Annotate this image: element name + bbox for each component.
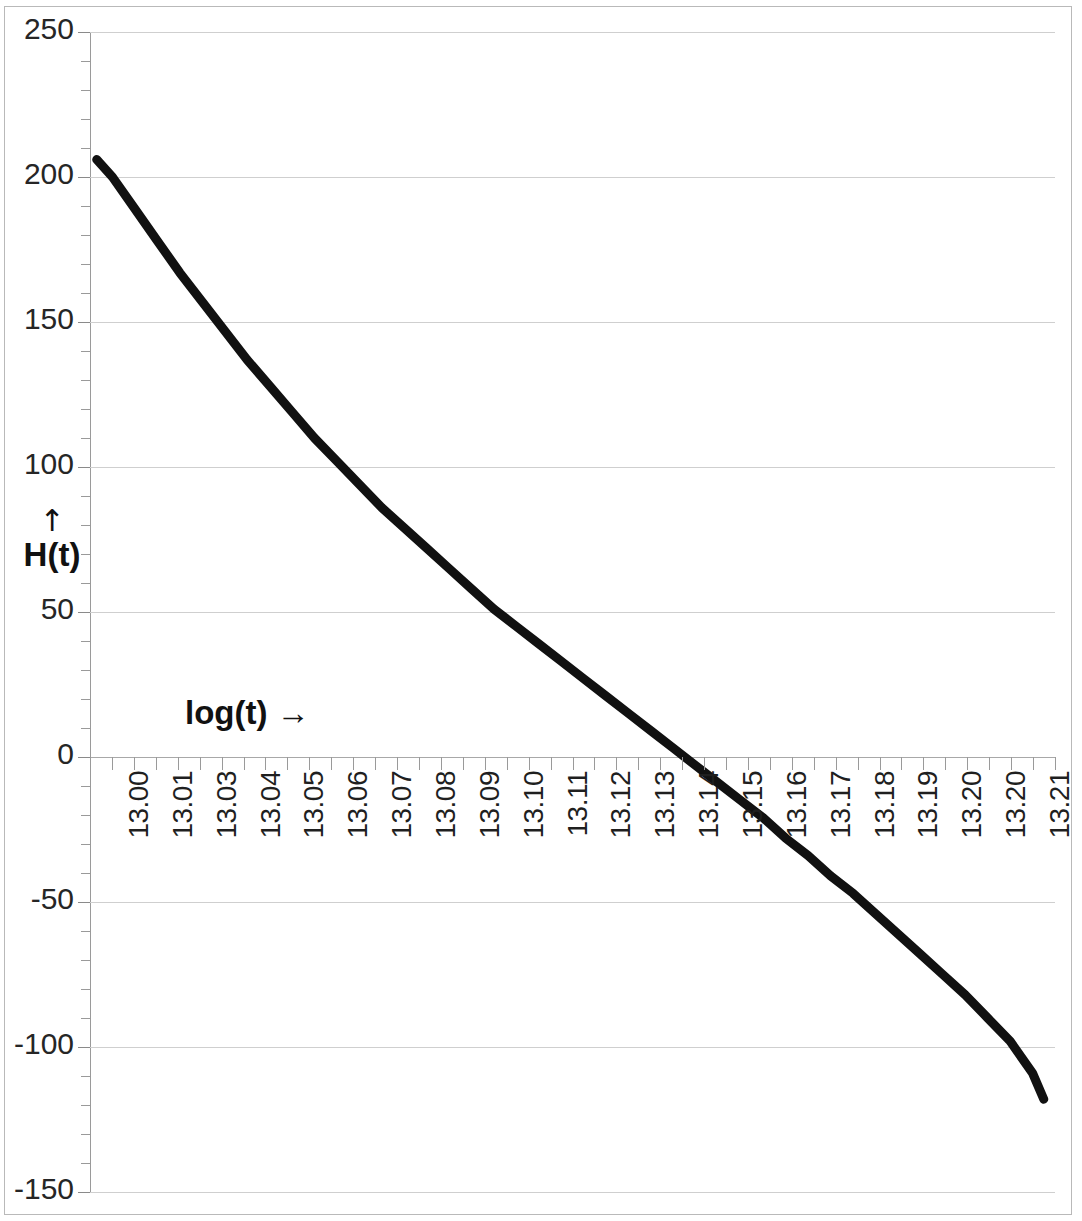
x-tick-label-3: 13.04 [255, 771, 287, 891]
x-tick-label-6: 13.07 [386, 771, 418, 891]
y-tick-mark-220 [81, 119, 90, 120]
x-tick-mark-10 [309, 757, 310, 770]
x-tick-mark-13 [375, 757, 376, 770]
x-axis-ticks [90, 757, 1055, 771]
y-tick-mark--20 [81, 815, 90, 816]
x-tick-label-4: 13.05 [298, 771, 330, 891]
y-axis-title-text: H(t) [14, 536, 90, 574]
x-tick-label-10: 13.11 [562, 771, 594, 891]
x-tick-mark-39 [945, 757, 946, 770]
x-tick-mark-8 [265, 757, 266, 770]
x-tick-label-9: 13.10 [518, 771, 550, 891]
x-tick-label-7: 13.08 [430, 771, 462, 891]
series-polyline-ht [97, 160, 1044, 1100]
x-tick-label-12: 13.13 [649, 771, 681, 891]
x-tick-mark-21 [551, 757, 552, 770]
y-axis-title: ↑ H(t) [14, 506, 90, 574]
x-tick-mark-27 [682, 757, 683, 770]
x-tick-mark-6 [222, 757, 223, 770]
x-tick-mark-35 [858, 757, 859, 770]
x-tick-mark-30 [748, 757, 749, 770]
y-tick-mark-130 [81, 380, 90, 381]
x-tick-mark-34 [836, 757, 837, 770]
y-tick-mark-20 [81, 699, 90, 700]
x-axis-title: log(t) → [185, 694, 310, 732]
y-tick-mark--60 [81, 931, 90, 932]
x-tick-mark-22 [573, 757, 574, 770]
x-tick-mark-23 [594, 757, 595, 770]
x-tick-mark-41 [989, 757, 990, 770]
x-tick-label-16: 13.17 [825, 771, 857, 891]
y-tick-mark--120 [81, 1105, 90, 1106]
x-tick-mark-32 [792, 757, 793, 770]
x-tick-mark-2 [134, 757, 135, 770]
y-tick-mark--90 [81, 1018, 90, 1019]
x-tick-label-2: 13.03 [211, 771, 243, 891]
y-tick-mark--140 [81, 1163, 90, 1164]
x-tick-mark-5 [200, 757, 201, 770]
x-tick-mark-3 [156, 757, 157, 770]
y-tick-mark-0 [78, 757, 90, 758]
y-tick-mark-50 [78, 612, 90, 613]
y-tick-mark-190 [81, 206, 90, 207]
y-tick-mark-250 [78, 32, 90, 33]
y-tick-mark-90 [81, 496, 90, 497]
x-tick-label-14: 13.15 [737, 771, 769, 891]
x-tick-mark-4 [178, 757, 179, 770]
y-tick-mark-230 [81, 90, 90, 91]
x-tick-mark-16 [441, 757, 442, 770]
plot-area [90, 32, 1055, 1192]
x-tick-mark-40 [967, 757, 968, 770]
x-tick-mark-15 [419, 757, 420, 770]
y-tick-mark-170 [81, 264, 90, 265]
y-tick-label-150: 150 [2, 302, 74, 336]
chart-figure: 250200150100500-50-100-150 13.0013.0113.… [0, 0, 1082, 1221]
y-tick-mark-60 [81, 583, 90, 584]
y-tick-label--50: -50 [2, 882, 74, 916]
x-tick-label-1: 13.01 [167, 771, 199, 891]
x-tick-mark-43 [1033, 757, 1034, 770]
x-axis-title-text: log(t) → [185, 694, 310, 731]
y-tick-mark--70 [81, 960, 90, 961]
x-tick-label-21: 13.21 [1044, 771, 1076, 891]
x-tick-label-18: 13.19 [912, 771, 944, 891]
x-tick-mark-24 [616, 757, 617, 770]
y-tick-mark--40 [81, 873, 90, 874]
y-tick-mark-30 [81, 670, 90, 671]
x-tick-label-17: 13.18 [869, 771, 901, 891]
x-tick-mark-36 [880, 757, 881, 770]
y-tick-mark--80 [81, 989, 90, 990]
y-tick-mark-10 [81, 728, 90, 729]
y-axis-tick-labels: 250200150100500-50-100-150 [0, 0, 74, 1221]
x-tick-mark-7 [244, 757, 245, 770]
series-line-chart [90, 32, 1055, 1192]
y-tick-label-0: 0 [2, 737, 74, 771]
y-tick-label--150: -150 [2, 1172, 74, 1206]
x-tick-label-11: 13.12 [605, 771, 637, 891]
gridline-y--150 [90, 1192, 1055, 1193]
x-tick-label-5: 13.06 [342, 771, 374, 891]
x-tick-label-15: 13.16 [781, 771, 813, 891]
y-tick-mark--30 [81, 844, 90, 845]
x-tick-mark-11 [331, 757, 332, 770]
x-tick-mark-31 [770, 757, 771, 770]
y-tick-label--100: -100 [2, 1027, 74, 1061]
y-axis-arrow-icon: ↑ [14, 506, 90, 536]
y-tick-mark-210 [81, 148, 90, 149]
x-tick-mark-29 [726, 757, 727, 770]
x-tick-mark-37 [901, 757, 902, 770]
y-tick-mark-40 [81, 641, 90, 642]
x-tick-mark-9 [287, 757, 288, 770]
y-tick-mark--110 [81, 1076, 90, 1077]
x-tick-mark-0 [90, 757, 91, 770]
y-tick-mark--100 [78, 1047, 90, 1048]
x-tick-mark-28 [704, 757, 705, 770]
y-tick-mark--150 [78, 1192, 90, 1193]
x-tick-mark-18 [485, 757, 486, 770]
x-tick-label-13: 13.14 [693, 771, 725, 891]
x-tick-label-0: 13.00 [123, 771, 155, 891]
y-tick-label-250: 250 [2, 12, 74, 46]
y-tick-mark-110 [81, 438, 90, 439]
y-tick-mark-200 [78, 177, 90, 178]
y-tick-mark-120 [81, 409, 90, 410]
